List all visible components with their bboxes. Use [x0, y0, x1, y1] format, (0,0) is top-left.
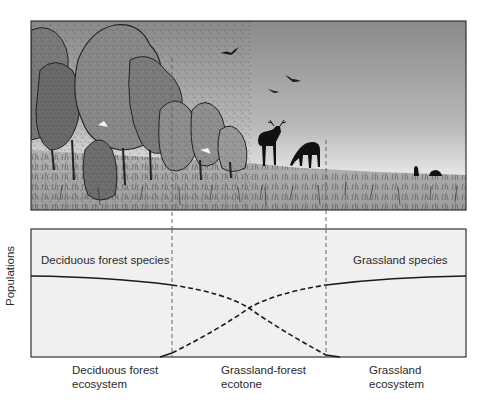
ecotone-diagram — [0, 0, 491, 402]
deciduous-trees — [31, 21, 251, 206]
zone-label-line: ecotone — [221, 377, 306, 391]
zone-label-line: Deciduous forest — [72, 363, 158, 377]
population-chart — [31, 229, 466, 357]
grassland-species-label: Grassland species — [353, 253, 448, 267]
zone-label-forest: Deciduous forest ecosystem — [72, 363, 158, 391]
zone-label-ecotone: Grassland-forest ecotone — [221, 363, 306, 391]
zone-label-line: Grassland — [369, 363, 424, 377]
chart-frame — [31, 229, 466, 357]
zone-label-line: Grassland-forest — [221, 363, 306, 377]
landscape-illustration — [31, 21, 466, 210]
zone-label-grassland: Grassland ecosystem — [369, 363, 424, 391]
forest-species-label: Deciduous forest species — [41, 253, 169, 267]
zone-label-line: ecosystem — [369, 377, 424, 391]
y-axis-label: Populations — [4, 246, 16, 306]
zone-label-line: ecosystem — [72, 377, 158, 391]
